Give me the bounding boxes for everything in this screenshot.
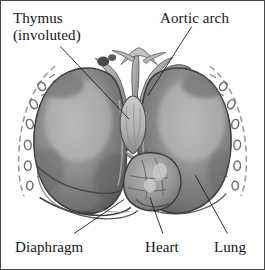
label-diaphragm: Diaphragm: [15, 239, 83, 256]
heart: [124, 153, 181, 211]
label-heart: Heart: [145, 239, 179, 256]
label-thymus-line2: (involuted): [13, 27, 81, 44]
label-lung: Lung: [214, 239, 246, 256]
label-thymus-line1: Thymus: [13, 10, 81, 27]
label-thymus: Thymus (involuted): [13, 10, 81, 44]
label-aortic-arch: Aortic arch: [160, 10, 229, 27]
anatomy-figure: Thymus (involuted) Aortic arch Diaphragm…: [0, 0, 265, 270]
